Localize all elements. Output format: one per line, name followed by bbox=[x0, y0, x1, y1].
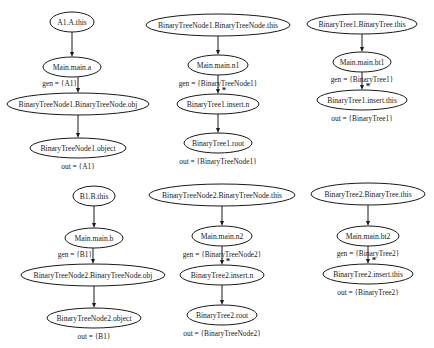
edge bbox=[360, 34, 364, 52]
out-set-label: out = {BinaryTree2} bbox=[337, 288, 399, 297]
node-label: BinaryTree1.insert.n bbox=[187, 100, 250, 109]
star-marker-icon: * bbox=[226, 256, 231, 266]
graph-node: BinaryTree1.insert.this bbox=[317, 90, 407, 110]
edge: gen = {BinaryTreeNode2}* bbox=[183, 246, 262, 266]
star-marker-icon: * bbox=[366, 81, 371, 91]
node-label: BinaryTree2.insert.this bbox=[333, 270, 403, 279]
node-label: BinaryTreeNode1.object bbox=[40, 144, 116, 153]
edge: gen = {BinaryTreeNode1}* bbox=[179, 75, 258, 95]
edge bbox=[76, 115, 80, 138]
edge bbox=[366, 205, 370, 226]
out-set-label: out = {BinaryTree1} bbox=[331, 114, 393, 123]
dataflow-diagram: gen = {A1}A1.A.thisMain.main.aBinaryTree… bbox=[0, 0, 434, 348]
graph-node: Main.main.b bbox=[65, 228, 123, 248]
arrowhead-icon bbox=[70, 52, 74, 57]
graph-node: A1.A.this bbox=[50, 12, 94, 32]
gen-set-label: gen = {BinaryTreeNode1} bbox=[179, 79, 258, 88]
node-label: BinaryTree1.BinaryTree.this bbox=[318, 20, 405, 29]
edge: gen = {B1} bbox=[58, 248, 95, 264]
graph-node: BinaryTreeNode2.BinaryTreeNode.this bbox=[149, 184, 295, 206]
graph-node: Main.main.n2 bbox=[192, 226, 252, 246]
graph-node: BinaryTree2.root bbox=[187, 305, 257, 325]
node-label: BinaryTreeNode1.BinaryTreeNode.this bbox=[158, 21, 278, 30]
arrowhead-icon bbox=[216, 89, 220, 94]
node-label: BinaryTree1.insert.this bbox=[327, 96, 397, 105]
node-label: BinaryTreeNode2.BinaryTreeNode.obj bbox=[34, 271, 153, 280]
node-label: Main.main.b bbox=[75, 234, 114, 243]
graph-node: BinaryTreeNode1.BinaryTreeNode.obj bbox=[7, 93, 149, 115]
star-marker-icon: * bbox=[222, 85, 227, 95]
graph-node: Main.main.a bbox=[43, 57, 101, 77]
node-label: Main.main.n1 bbox=[197, 61, 240, 70]
graph-btn1: gen = {BinaryTreeNode1}*BinaryTreeNode1.… bbox=[146, 14, 290, 166]
graph-btn2: gen = {BinaryTreeNode2}*BinaryTreeNode2.… bbox=[149, 184, 295, 338]
gen-set-label: gen = {BinaryTree1} bbox=[331, 75, 394, 84]
graph-node: Main.main.n1 bbox=[188, 55, 248, 75]
graph-node: BinaryTreeNode1.BinaryTreeNode.this bbox=[146, 14, 290, 36]
node-label: B1.B.this bbox=[80, 192, 109, 201]
node-label: Main.main.a bbox=[53, 63, 92, 72]
graph-a1: gen = {A1}A1.A.thisMain.main.aBinaryTree… bbox=[7, 12, 149, 171]
edge bbox=[92, 206, 96, 228]
arrowhead-icon bbox=[220, 260, 224, 265]
node-label: BinaryTree2.insert.n bbox=[191, 271, 254, 280]
edge bbox=[216, 36, 220, 55]
graph-node: BinaryTree2.insert.n bbox=[180, 265, 264, 285]
graph-node: B1.B.this bbox=[73, 186, 115, 206]
arrowhead-icon bbox=[216, 50, 220, 55]
gen-set-label: gen = {BinaryTreeNode2} bbox=[183, 250, 262, 259]
graph-bt2: gen = {BinaryTree2}*BinaryTree2.BinaryTr… bbox=[311, 183, 425, 297]
edge bbox=[220, 206, 224, 226]
out-set-label: out = {BinaryTreeNode2} bbox=[183, 329, 261, 338]
node-label: Main.main.bt1 bbox=[340, 58, 385, 67]
arrowhead-icon bbox=[220, 300, 224, 305]
arrowhead-icon bbox=[92, 223, 96, 228]
edge bbox=[216, 114, 220, 133]
node-label: BinaryTreeNode1.BinaryTreeNode.obj bbox=[19, 100, 138, 109]
star-marker-icon: * bbox=[372, 255, 377, 265]
node-label: BinaryTreeNode2.BinaryTreeNode.this bbox=[162, 191, 282, 200]
graph-node: BinaryTree1.insert.n bbox=[177, 94, 259, 114]
gen-set-label: gen = {A1} bbox=[42, 79, 77, 88]
edge bbox=[92, 286, 96, 308]
arrowhead-icon bbox=[92, 303, 96, 308]
arrowhead-icon bbox=[91, 259, 95, 264]
arrowhead-icon bbox=[360, 85, 364, 90]
edge: gen = {BinaryTree2}* bbox=[337, 246, 400, 265]
arrowhead-icon bbox=[360, 47, 364, 52]
graph-node: BinaryTree1.root bbox=[184, 133, 252, 153]
node-label: BinaryTree1.root bbox=[192, 139, 245, 148]
node-label: BinaryTree2.BinaryTree.this bbox=[324, 190, 411, 199]
graph-b1: gen = {B1}B1.B.thisMain.main.bBinaryTree… bbox=[21, 186, 165, 341]
out-set-label: out = {B1} bbox=[77, 332, 110, 341]
gen-set-label: gen = {B1} bbox=[58, 250, 92, 259]
graph-bt1: gen = {BinaryTree1}*BinaryTree1.BinaryTr… bbox=[307, 14, 417, 123]
edge bbox=[220, 285, 224, 305]
arrowhead-icon bbox=[220, 221, 224, 226]
graph-node: Main.main.bt2 bbox=[337, 226, 399, 246]
graph-node: BinaryTreeNode2.BinaryTreeNode.obj bbox=[21, 264, 165, 286]
arrowhead-icon bbox=[76, 88, 80, 93]
graph-node: BinaryTree2.insert.this bbox=[323, 264, 413, 284]
edge bbox=[70, 32, 74, 57]
node-label: BinaryTreeNode2.object bbox=[56, 314, 132, 323]
out-set-label: out = {BinaryTreeNode1} bbox=[179, 157, 257, 166]
arrowhead-icon bbox=[216, 128, 220, 133]
graph-node: BinaryTreeNode2.object bbox=[47, 308, 141, 328]
node-label: Main.main.bt2 bbox=[346, 232, 391, 241]
out-set-label: out = {A1} bbox=[61, 162, 94, 171]
gen-set-label: gen = {BinaryTree2} bbox=[337, 249, 400, 258]
graph-node: BinaryTree1.BinaryTree.this bbox=[307, 14, 417, 34]
graph-node: Main.main.bt1 bbox=[333, 52, 391, 72]
graph-node: BinaryTree2.BinaryTree.this bbox=[311, 183, 425, 205]
node-label: A1.A.this bbox=[57, 18, 87, 27]
edge: gen = {A1} bbox=[42, 77, 80, 93]
node-label: Main.main.n2 bbox=[201, 232, 244, 241]
edge: gen = {BinaryTree1}* bbox=[331, 72, 394, 91]
arrowhead-icon bbox=[76, 133, 80, 138]
arrowhead-icon bbox=[366, 221, 370, 226]
graph-node: BinaryTreeNode1.object bbox=[30, 138, 126, 158]
arrowhead-icon bbox=[366, 259, 370, 264]
node-label: BinaryTree2.root bbox=[196, 311, 249, 320]
